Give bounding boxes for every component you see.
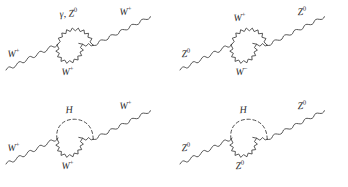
loop-top-label: W+ — [233, 11, 246, 23]
loop-wavy-circle-lower — [230, 43, 267, 63]
outgoing-line-wavy — [267, 111, 324, 140]
outgoing-particle-label: W+ — [119, 5, 132, 17]
loop-wavy-circle-lower — [230, 137, 267, 157]
loop-top-label: γ, Z0 — [59, 7, 78, 20]
incoming-particle-label: W+ — [7, 141, 20, 153]
loop-top-label: H — [65, 104, 73, 116]
diagram-bottom-left-canvas — [0, 94, 174, 187]
loop-top-label: H — [239, 104, 247, 116]
diagram-bottom-right: H Z0 Z0 Z0 — [174, 94, 348, 187]
loop-bottom-label: W+ — [61, 65, 74, 77]
loop-wavy-circle-upper — [57, 28, 93, 45]
diagram-top-right: W+ Z0 W− Z0 — [174, 0, 348, 93]
outgoing-particle-label: Z0 — [297, 99, 307, 111]
loop-bottom-label: W+ — [61, 159, 74, 171]
outgoing-line-wavy — [93, 17, 150, 46]
incoming-particle-label: Z0 — [181, 47, 191, 59]
outgoing-particle-label: W+ — [119, 99, 132, 111]
loop-bottom-label: Z0 — [235, 159, 245, 171]
loop-wavy-circle-upper — [231, 28, 267, 45]
diagram-top-right-canvas — [174, 0, 348, 93]
diagram-bottom-left: H W+ W+ W+ — [0, 94, 174, 187]
outgoing-line-wavy — [267, 17, 324, 46]
loop-higgs-dashed-arc — [231, 119, 267, 139]
diagram-top-left-canvas — [0, 0, 174, 93]
diagram-top-left: γ, Z0 W+ W+ W+ — [0, 0, 174, 93]
loop-higgs-dashed-arc — [57, 119, 93, 139]
incoming-particle-label: Z0 — [181, 141, 191, 153]
loop-bottom-label: W− — [235, 65, 248, 77]
loop-wavy-circle-lower — [56, 137, 93, 157]
incoming-particle-label: W+ — [7, 47, 20, 59]
loop-wavy-circle-lower — [56, 43, 93, 63]
outgoing-particle-label: Z0 — [297, 5, 307, 17]
outgoing-line-wavy — [93, 111, 150, 140]
feynman-diagram-figure: γ, Z0 W+ W+ W+ W+ Z0 W− Z0 — [0, 0, 348, 187]
diagram-bottom-right-canvas — [174, 94, 348, 187]
